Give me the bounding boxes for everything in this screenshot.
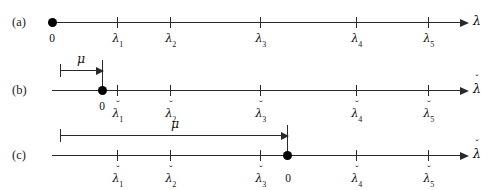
origin-dot-b [98,86,107,95]
caron-icon: ˇ [259,165,262,175]
tick-label-c-4: ˇ λ4 [351,166,362,187]
shift-label-b: μ [77,53,85,66]
axis-tick-b-4 [356,85,357,96]
axis-arrowhead-a [460,19,469,27]
axis-tick-a-1 [117,17,118,28]
spectrum-shift-figure: (a) 0 λ1 λ2 λ3 λ4 λ5 λ (b) μ 0 [0,0,490,190]
axis-tick-c-5 [428,150,429,161]
tick-label-c-5: ˇ λ5 [423,166,434,187]
caron-icon: ˇ [169,165,172,175]
tick-label-b-3: ˇ λ3 [255,101,266,122]
origin-dot-c [283,151,292,160]
row-label-a: (a) [12,15,26,30]
caron-icon: ˇ [474,74,479,84]
tick-label-c-3: ˇ λ3 [255,166,266,187]
row-label-c: (c) [12,148,26,163]
origin-label-b: 0 [99,101,105,113]
shift-arrow-line-c [60,135,285,136]
caron-icon: ˇ [259,100,262,110]
axis-tick-b-5 [428,85,429,96]
axis-tick-c-4 [356,150,357,161]
axis-line-b [52,90,462,91]
caron-icon: ˇ [169,100,172,110]
axis-symbol-a: λ [473,15,481,28]
axis-tick-b-1 [117,85,118,96]
row-label-b: (b) [12,83,27,98]
tick-label-a-5: λ5 [423,33,434,47]
axis-tick-b-2 [170,85,171,96]
caron-icon: ˇ [427,100,430,110]
axis-tick-b-3 [260,85,261,96]
axis-line-c [52,155,462,156]
tick-label-b-4: ˇ λ4 [351,101,362,122]
caron-icon: ˇ [474,139,479,149]
axis-tick-a-5 [428,17,429,28]
axis-tick-c-3 [260,150,261,161]
origin-dot-a [48,18,57,27]
axis-symbol-c: ˇ λ [473,148,481,161]
tick-label-c-1: ˇ λ1 [112,166,123,187]
tick-label-a-1: λ1 [112,33,123,47]
origin-label-c: 0 [285,166,291,185]
caron-icon: ˇ [427,165,430,175]
caron-icon: ˇ [355,100,358,110]
caron-icon: ˇ [116,100,119,110]
axis-tick-a-3 [260,17,261,28]
tick-label-b-1: ˇ λ1 [112,101,123,122]
shift-arrow-line-b [60,70,100,71]
tick-label-b-5: ˇ λ5 [423,101,434,122]
tick-label-a-4: λ4 [351,33,362,47]
axis-arrowhead-b [460,87,469,95]
caron-icon: ˇ [116,165,119,175]
tick-label-a-3: λ3 [255,33,266,47]
tick-label-c-2: ˇ λ2 [165,166,176,187]
axis-arrowhead-c [460,152,469,160]
axis-tick-c-1 [117,150,118,161]
axis-tick-c-2 [170,150,171,161]
axis-tick-a-2 [170,17,171,28]
origin-label-a: 0 [49,33,55,45]
axis-line-a [52,22,462,23]
caron-icon: ˇ [355,165,358,175]
shift-label-c: μ [171,118,179,131]
axis-symbol-b: ˇ λ [473,83,481,96]
axis-tick-a-4 [356,17,357,28]
tick-label-a-2: λ2 [165,33,176,47]
